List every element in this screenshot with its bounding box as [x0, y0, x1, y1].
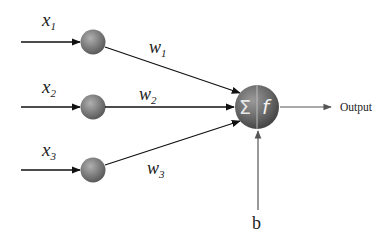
input-label-3: x3 [41, 139, 56, 162]
input-node-3 [81, 158, 106, 183]
weight-label-3: w3 [147, 158, 165, 180]
output-label: Output [340, 101, 373, 114]
weight-edge-1 [105, 47, 240, 93]
weight-label-2: w2 [139, 84, 157, 106]
weight-label-1: w1 [149, 37, 167, 59]
sum-symbol: Σ [239, 96, 251, 118]
input-label-2: x2 [41, 76, 56, 99]
bias-label: b [252, 213, 261, 233]
perceptron-diagram: x1 x2 x3 w1 w2 w3 Σ f Output b [0, 0, 390, 237]
weight-edge-3 [105, 121, 240, 165]
input-node-2 [81, 95, 106, 120]
input-label-1: x1 [41, 9, 56, 32]
input-node-1 [81, 30, 106, 55]
